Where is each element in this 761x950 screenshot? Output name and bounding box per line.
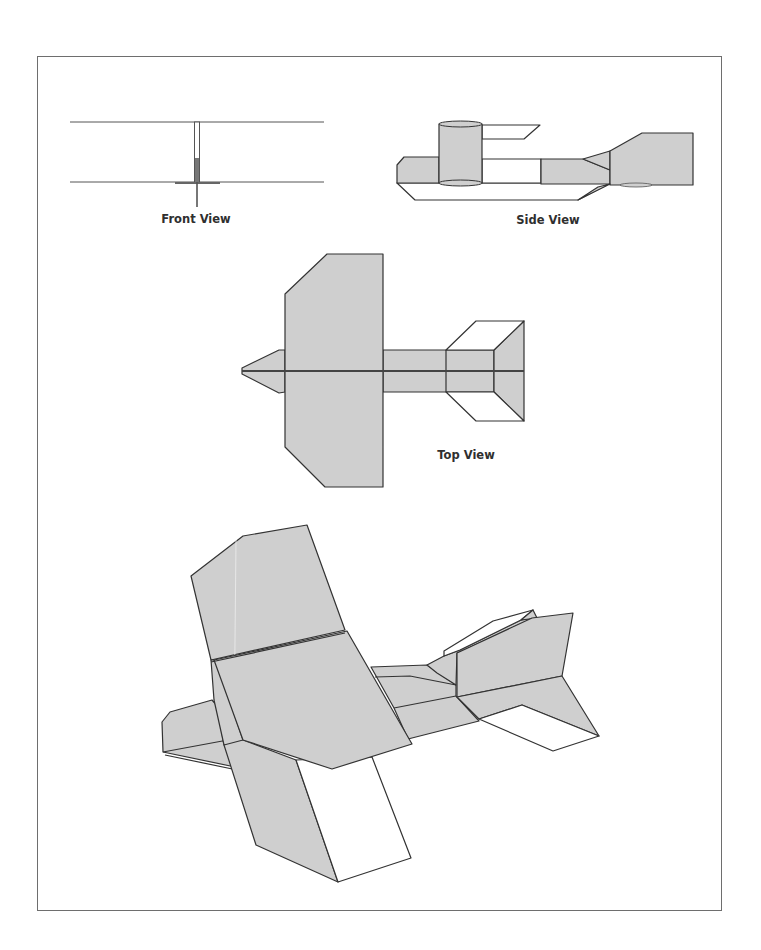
top-view-label: Top View xyxy=(437,448,495,462)
side-nose xyxy=(397,157,439,183)
side-tail-ellipse xyxy=(620,183,652,187)
side-view-label: Side View xyxy=(516,213,579,227)
side-cylinder-bottom xyxy=(439,180,482,186)
side-top-flap xyxy=(482,125,540,139)
side-view-drawing xyxy=(397,121,693,200)
side-body-white xyxy=(482,159,541,183)
airplane-diagram xyxy=(0,0,761,950)
side-keel xyxy=(397,183,610,200)
perspective-drawing xyxy=(162,525,599,882)
side-cylinder-top xyxy=(439,121,482,127)
side-tail-fin xyxy=(610,133,693,185)
front-fuselage-fill xyxy=(195,158,199,182)
side-cylinder xyxy=(439,124,482,183)
front-view-label: Front View xyxy=(161,212,230,226)
front-view-drawing xyxy=(70,122,324,207)
